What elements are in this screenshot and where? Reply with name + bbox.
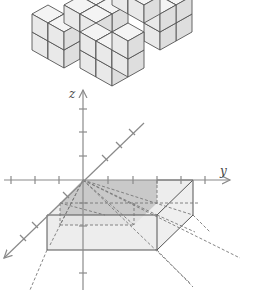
z-axis-label: z xyxy=(68,87,76,101)
rectangular-box xyxy=(30,180,240,290)
diagram-figure: z y xyxy=(0,0,264,305)
y-axis-label: y xyxy=(219,164,227,178)
caption xyxy=(0,299,264,305)
cube-stack xyxy=(32,0,192,86)
